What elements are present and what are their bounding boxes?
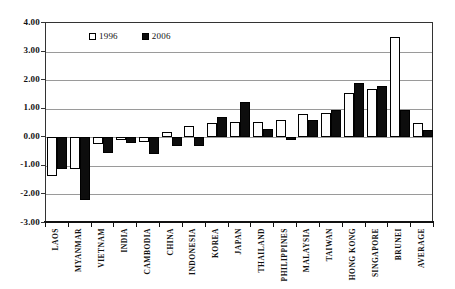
- bar-2006-hong-kong: [354, 83, 364, 137]
- x-axis-label: INDONESIA: [188, 228, 198, 275]
- x-axis-label: LAOS: [51, 228, 61, 250]
- x-axis-label: BRUNEI: [394, 228, 404, 260]
- bar-1996-vietnam: [93, 137, 103, 144]
- x-tick-mark: [365, 223, 366, 227]
- y-tick-mark: [41, 108, 45, 109]
- bar-2006-thailand: [263, 129, 273, 138]
- bar-1996-china: [162, 132, 172, 138]
- x-axis-label: SINGAPORE: [371, 228, 381, 277]
- x-axis-label: THAILAND: [257, 228, 267, 272]
- x-tick-mark: [342, 223, 343, 227]
- y-tick-label: 3.00: [2, 46, 40, 55]
- bar-2006-brunei: [400, 110, 410, 137]
- x-axis-label: PHILIPPINES: [280, 228, 290, 281]
- x-tick-mark: [205, 223, 206, 227]
- x-axis-label: CHINA: [166, 228, 176, 256]
- x-tick-mark: [296, 223, 297, 227]
- legend-label-1996: 1996: [99, 31, 118, 41]
- y-tick-mark: [41, 193, 45, 194]
- x-tick-mark: [228, 223, 229, 227]
- y-tick-label: 0.00: [2, 132, 40, 141]
- bar-2006-korea: [217, 117, 227, 137]
- bar-2006-cambodia: [149, 137, 159, 154]
- y-tick-mark: [41, 51, 45, 52]
- y-tick-mark: [41, 79, 45, 80]
- x-axis-label: VIETNAM: [97, 228, 107, 268]
- x-tick-mark: [113, 223, 114, 227]
- y-tick-label: 2.00: [2, 75, 40, 84]
- bar-2006-taiwan: [331, 110, 341, 137]
- bar-1996-laos: [47, 137, 57, 176]
- bar-1996-india: [116, 137, 126, 140]
- legend-swatch-2006: [142, 33, 149, 40]
- bar-1996-average: [413, 123, 423, 137]
- bar-2006-china: [172, 137, 182, 146]
- x-tick-mark: [433, 223, 434, 227]
- y-tick-mark: [41, 136, 45, 137]
- x-axis-label: HONG KONG: [348, 228, 358, 280]
- x-tick-mark: [45, 223, 46, 227]
- bar-2006-india: [126, 137, 136, 143]
- grid-line: [46, 80, 432, 81]
- x-tick-mark: [273, 223, 274, 227]
- x-axis-label: INDIA: [120, 228, 130, 253]
- x-tick-mark: [91, 223, 92, 227]
- y-tick-mark: [41, 165, 45, 166]
- x-tick-mark: [68, 223, 69, 227]
- y-tick-label: -3.00: [2, 218, 40, 227]
- x-tick-mark: [319, 223, 320, 227]
- bar-2006-myanmar: [80, 137, 90, 200]
- bar-2006-indonesia: [194, 137, 204, 146]
- bar-1996-japan: [230, 122, 240, 138]
- bar-1996-thailand: [253, 122, 263, 138]
- x-axis-line: [44, 221, 434, 223]
- bar-2006-laos: [57, 137, 67, 168]
- y-tick-mark: [41, 22, 45, 23]
- bar-1996-singapore: [367, 89, 377, 138]
- bar-1996-indonesia: [184, 126, 194, 137]
- bar-1996-philippines: [276, 120, 286, 137]
- x-tick-mark: [136, 223, 137, 227]
- bar-2006-philippines: [286, 137, 296, 140]
- bar-2006-malaysia: [308, 120, 318, 137]
- x-axis-label: CAMBODIA: [143, 228, 153, 275]
- x-tick-mark: [250, 223, 251, 227]
- x-axis-label: MYANMAR: [74, 228, 84, 272]
- legend: 1996 2006: [89, 31, 171, 41]
- legend-swatch-1996: [89, 33, 96, 40]
- y-tick-label: -2.00: [2, 189, 40, 198]
- legend-item-2006: 2006: [142, 31, 171, 41]
- x-axis-label: AVERAGE: [417, 228, 427, 268]
- x-tick-mark: [410, 223, 411, 227]
- bar-1996-myanmar: [70, 137, 80, 168]
- x-axis-label: TAIWAN: [325, 228, 335, 261]
- x-tick-mark: [159, 223, 160, 227]
- bar-2006-singapore: [377, 86, 387, 137]
- x-tick-mark: [182, 223, 183, 227]
- bar-2006-average: [423, 130, 433, 137]
- y-tick-label: 1.00: [2, 103, 40, 112]
- plot-area: 1996 2006: [45, 22, 433, 222]
- legend-item-1996: 1996: [89, 31, 118, 41]
- legend-label-2006: 2006: [152, 31, 171, 41]
- x-axis-label: JAPAN: [234, 228, 244, 255]
- x-axis-label: MALAYSIA: [302, 228, 312, 272]
- y-tick-label: -1.00: [2, 160, 40, 169]
- bar-1996-korea: [207, 123, 217, 137]
- bar-1996-malaysia: [298, 114, 308, 137]
- bar-2006-vietnam: [103, 137, 113, 153]
- x-axis-label: KOREA: [211, 228, 221, 258]
- grid-line: [46, 194, 432, 195]
- bar-1996-cambodia: [139, 137, 149, 141]
- y-tick-label: 4.00: [2, 18, 40, 27]
- x-tick-mark: [387, 223, 388, 227]
- bar-1996-taiwan: [321, 113, 331, 137]
- bar-2006-japan: [240, 102, 250, 138]
- grid-line: [46, 52, 432, 53]
- bar-1996-hong-kong: [344, 93, 354, 137]
- bar-1996-brunei: [390, 37, 400, 137]
- grid-line: [46, 166, 432, 167]
- bar-chart: 1996 2006 4.003.002.001.000.00-1.00-2.00…: [0, 0, 455, 289]
